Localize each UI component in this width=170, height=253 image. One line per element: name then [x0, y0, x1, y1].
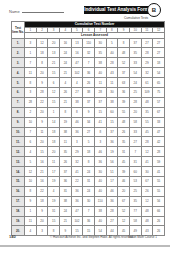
corner-label: Test Item No. — [12, 22, 25, 39]
lesson-cell: 48 — [118, 117, 130, 127]
lesson-cell: 20 — [129, 107, 141, 117]
lesson-cell: 39 — [118, 97, 130, 107]
copyright: © Harcourt Achieve Inc. and Stephen Hake… — [50, 235, 134, 239]
test-item-number: 8. — [12, 107, 25, 117]
lesson-cell: 27 — [153, 48, 165, 58]
lesson-cell: 37 — [94, 97, 106, 107]
lesson-cell: 33 — [129, 127, 141, 137]
lesson-cell: 11 — [59, 137, 71, 147]
table-row: 14.122117374124305139603041 — [12, 167, 165, 177]
lesson-cell: 21 — [36, 167, 48, 177]
lesson-cell: 28 — [36, 87, 48, 97]
lesson-cell: 25 — [129, 186, 141, 196]
lesson-cell: 16 — [59, 38, 71, 48]
test-item-number: 1. — [12, 38, 25, 48]
table-row: 11.62018113533635272842 — [12, 137, 165, 147]
lesson-cell: 28 — [153, 147, 165, 157]
name-field: Name — [9, 9, 64, 14]
lesson-cell: 17 — [106, 176, 118, 186]
lesson-cell: 29 — [71, 147, 83, 157]
lesson-cell: 36 — [71, 196, 83, 206]
book-title: Saxon Math Course 1 — [128, 235, 157, 239]
lesson-cell: 1 — [25, 48, 37, 58]
lesson-cell: 61 — [141, 78, 153, 88]
lesson-cell: 27 — [129, 137, 141, 147]
lesson-cell: 26 — [59, 157, 71, 167]
lesson-cell: 36 — [59, 176, 71, 186]
test-item-number: 5. — [12, 78, 25, 88]
test-item-number: 3. — [12, 58, 25, 68]
test-item-number: 12. — [12, 147, 25, 157]
lesson-cell: 8 — [25, 186, 37, 196]
lesson-cell: 38 — [106, 97, 118, 107]
lesson-cell: 41 — [141, 157, 153, 167]
lesson-cell: 36 — [118, 87, 130, 97]
lesson-cell: 19 — [48, 196, 60, 206]
lesson-cell: 8 — [118, 38, 130, 48]
lesson-cell: 22 — [36, 97, 48, 107]
lesson-cell: 21 — [59, 68, 71, 78]
lesson-cell: 37 — [106, 127, 118, 137]
lesson-cell: 4 — [25, 226, 37, 236]
lesson-cell: 27 — [71, 87, 83, 97]
lesson-cell: 5 — [83, 137, 95, 147]
lesson-cell: 32 — [141, 68, 153, 78]
lesson-cell: 26 — [118, 127, 130, 137]
lesson-cell: 26 — [83, 78, 95, 88]
lesson-cell: 41 — [153, 167, 165, 177]
lesson-cell: 14 — [48, 117, 60, 127]
lesson-cell: 6 — [25, 137, 37, 147]
table-row: 15.101619362231401746536755 — [12, 176, 165, 186]
lesson-cell: 4 — [48, 186, 60, 196]
lesson-cell: 11 — [106, 78, 118, 88]
lesson-cell: 28 — [106, 206, 118, 216]
lesson-cell: 102 — [71, 68, 83, 78]
test-item-number: 7. — [12, 97, 25, 107]
test-item-number: 4. — [12, 68, 25, 78]
test-item-number: 2. — [12, 48, 25, 58]
lesson-cell: 37 — [118, 68, 130, 78]
lesson-cell: 24 — [59, 48, 71, 58]
lesson-cell: 28 — [129, 97, 141, 107]
lesson-cell: 52 — [118, 206, 130, 216]
lesson-cell: 28 — [141, 137, 153, 147]
lesson-cell: 30 — [94, 167, 106, 177]
lesson-cell: 13 — [71, 38, 83, 48]
lesson-cell: 31 — [59, 186, 71, 196]
lesson-cell: 51 — [106, 167, 118, 177]
lesson-cell: 8 — [59, 107, 71, 117]
lesson-cell: 20 — [36, 216, 48, 226]
lesson-cell: 58 — [129, 216, 141, 226]
lesson-cell: 26 — [153, 216, 165, 226]
lesson-cell: 35 — [129, 48, 141, 58]
lesson-cell: 55 — [118, 107, 130, 117]
lesson-cell: 38 — [94, 58, 106, 68]
lesson-cell: 38 — [83, 87, 95, 97]
table-row: 6.328122627382830362510975 — [12, 87, 165, 97]
lesson-cell: 27 — [153, 38, 165, 48]
lesson-cell: 77 — [129, 206, 141, 216]
lesson-cell: 7 — [83, 206, 95, 216]
lesson-cell: 58 — [129, 117, 141, 127]
table-row: 16.8224313624404620252655 — [12, 186, 165, 196]
table-row: 13.5161126328365645314159 — [12, 157, 165, 167]
lesson-cell: 4 — [59, 78, 71, 88]
table-row: 3.782124477382852332918 — [12, 58, 165, 68]
lesson-cell: 8 — [36, 58, 48, 68]
lesson-cell: 36 — [106, 196, 118, 206]
lesson-cell: 7 — [129, 147, 141, 157]
lesson-cell: 30 — [106, 87, 118, 97]
lesson-cell: 3 — [71, 137, 83, 147]
lesson-cell: 20 — [48, 147, 60, 157]
lesson-cell: 11 — [25, 216, 37, 226]
test-item-number: 15. — [12, 176, 25, 186]
lesson-cell: 32 — [83, 48, 95, 58]
test-analysis-table: Test Item No. Cumulative Test Number 123… — [11, 21, 165, 236]
lesson-cell: 30 — [94, 38, 106, 48]
lesson-cell: 48 — [141, 216, 153, 226]
lesson-cell: 45 — [141, 127, 153, 137]
lesson-cell: 65 — [153, 78, 165, 88]
lesson-cell: 28 — [141, 48, 153, 58]
lesson-cell: 21 — [59, 97, 71, 107]
lesson-cell: 15 — [94, 107, 106, 117]
